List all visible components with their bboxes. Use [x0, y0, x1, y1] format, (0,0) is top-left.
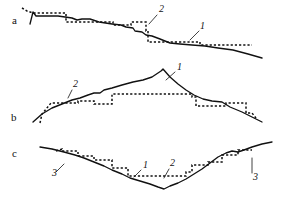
panel-c-letter: c — [12, 147, 17, 159]
panel-a-letter: a — [12, 14, 17, 26]
profile-figure-canvas: a 2 1 b 1 2 c 3 1 2 — [0, 0, 281, 198]
panel-c-callout-1-label: 1 — [143, 159, 148, 170]
figure-container: a 2 1 b 1 2 c 3 1 2 — [0, 0, 281, 198]
panel-c-callout-2-label: 2 — [170, 157, 175, 168]
panel-b-letter: b — [11, 111, 17, 123]
panel-a-callout-2-label: 2 — [159, 3, 164, 14]
panel-b-callout-1-label: 1 — [177, 61, 182, 72]
panel-c-callout-3-left-label: 3 — [51, 167, 57, 178]
panel-a-callout-1-label: 1 — [200, 20, 205, 31]
figure-background — [0, 0, 281, 198]
panel-b-callout-2-label: 2 — [73, 78, 78, 89]
panel-c-callout-3-right-label: 3 — [252, 171, 258, 182]
